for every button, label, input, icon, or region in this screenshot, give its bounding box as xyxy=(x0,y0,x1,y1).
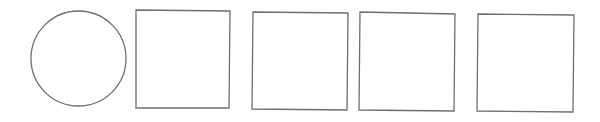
square-shape-2 xyxy=(252,12,348,110)
shapes-diagram xyxy=(0,0,600,122)
square-shape-3 xyxy=(359,12,455,111)
circle-shape xyxy=(31,11,126,106)
shapes-canvas xyxy=(0,0,600,122)
square-shape-1 xyxy=(136,10,230,108)
square-shape-4 xyxy=(477,14,574,112)
